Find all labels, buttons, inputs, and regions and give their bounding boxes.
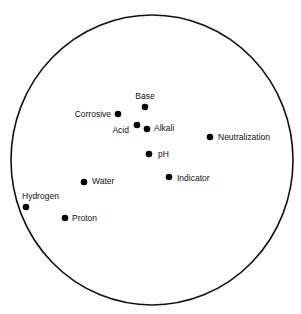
term-label: Corrosive [75,109,112,119]
term-dot [115,111,122,118]
term-base: Base [135,91,155,110]
term-dot [144,126,151,133]
term-label: pH [158,149,169,159]
term-alkali: Alkali [144,123,175,133]
term-label: Proton [72,213,97,223]
term-neutralization: Neutralization [207,132,271,142]
concept-map-canvas: BaseCorrosiveAcidAlkaliNeutralizationpHI… [0,0,301,314]
term-ph: pH [146,149,169,159]
boundary-circle [11,15,293,305]
term-dot [23,204,30,211]
term-label: Indicator [177,173,210,183]
term-label: Water [92,176,115,186]
term-label: Alkali [154,123,174,133]
term-dot [142,104,149,111]
term-label: Neutralization [218,132,270,142]
term-dot [207,134,214,141]
term-proton: Proton [62,213,98,223]
term-dot [81,179,88,186]
term-dot [62,215,69,222]
term-dot [166,174,173,181]
term-dot [134,122,141,129]
term-corrosive: Corrosive [75,109,122,119]
term-water: Water [81,176,115,186]
term-label: Base [135,91,155,101]
term-indicator: Indicator [166,173,210,183]
term-label: Hydrogen [22,191,59,201]
term-dot [146,151,153,158]
terms-group: BaseCorrosiveAcidAlkaliNeutralizationpHI… [22,91,270,223]
term-label: Acid [112,125,129,135]
term-hydrogen: Hydrogen [22,191,59,210]
term-acid: Acid [112,122,140,135]
